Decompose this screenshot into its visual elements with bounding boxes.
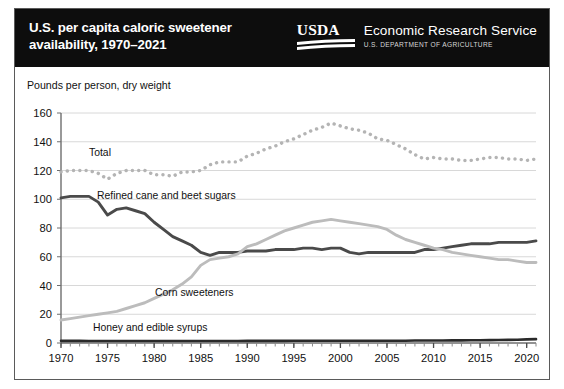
usda-wordmark: USDA <box>297 22 355 38</box>
x-tick-label: 2015 <box>468 352 493 364</box>
x-tick-label: 1990 <box>235 352 260 364</box>
usda-branding: USDA Economic Research Service U.S. DEPA… <box>297 22 537 53</box>
x-tick-label: 2005 <box>375 352 400 364</box>
x-tick-label: 2000 <box>328 352 353 364</box>
y-tick-label: 60 <box>40 251 52 263</box>
chart-figure: U.S. per capita caloric sweetener availa… <box>0 0 564 389</box>
y-tick-label: 20 <box>40 308 52 320</box>
x-tick-labels: 1970197519801985199019952000200520102015… <box>49 352 540 364</box>
x-tick-label: 1970 <box>49 352 74 364</box>
y-tick-label: 160 <box>33 107 52 119</box>
x-tick-label: 1980 <box>142 352 167 364</box>
data-series <box>61 123 536 341</box>
series-label-total: Total <box>89 147 111 158</box>
usda-swoosh-icon <box>297 39 355 52</box>
series-line-honey-and-edible-syrups <box>61 339 536 341</box>
series-label-corn-sweeteners: Corn sweeteners <box>155 287 234 298</box>
y-tick-labels: 020406080100120140160 <box>33 107 52 349</box>
x-tick-label: 1975 <box>95 352 120 364</box>
agency-text: Economic Research Service U.S. DEPARTMEN… <box>364 22 537 50</box>
agency-name: Economic Research Service <box>364 23 537 38</box>
y-tick-label: 120 <box>33 165 52 177</box>
header-banner: U.S. per capita caloric sweetener availa… <box>15 9 549 67</box>
y-tick-label: 140 <box>33 136 52 148</box>
x-tick-label: 1995 <box>281 352 306 364</box>
x-tick-label: 2010 <box>421 352 446 364</box>
y-tick-label: 40 <box>40 280 52 292</box>
series-line-corn-sweeteners <box>61 219 536 320</box>
series-label-refined-sugars: Refined cane and beet sugars <box>97 190 236 201</box>
x-major-ticks <box>61 343 527 348</box>
y-tick-label: 100 <box>33 193 52 205</box>
x-tick-label: 2020 <box>514 352 539 364</box>
y-tick-label: 0 <box>46 337 52 349</box>
y-tick-label: 80 <box>40 222 52 234</box>
plot-area: Pounds per person, dry weight 0204060801… <box>15 67 549 379</box>
agency-department: U.S. DEPARTMENT OF AGRICULTURE <box>364 39 537 50</box>
series-label-honey-syrups: Honey and edible syrups <box>93 322 207 333</box>
usda-logo: USDA <box>297 22 355 53</box>
x-tick-label: 1985 <box>188 352 213 364</box>
